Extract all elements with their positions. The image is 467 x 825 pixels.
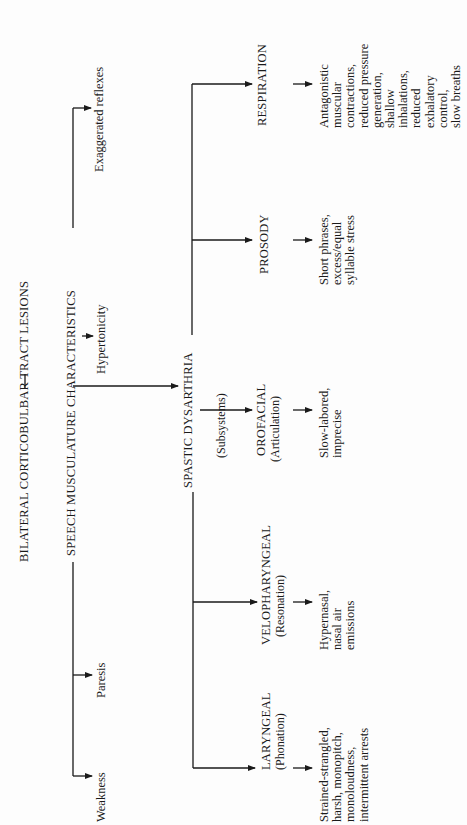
desc-line: reduced: [410, 44, 423, 128]
orofacial-description: Slow-labored, imprecise: [318, 388, 344, 458]
speech-musculature-label: SPEECH MUSCULATURE CHARACTERISTICS: [65, 290, 79, 556]
velopharyngeal-label: VELOPHARYNGEAL: [260, 525, 274, 645]
laryngeal-node: LARYNGEAL (Phonation): [260, 693, 287, 771]
desc-line: intermittent arrests: [358, 727, 371, 822]
paresis-label: Paresis: [95, 663, 109, 698]
laryngeal-description: Strained-strangled, harsh, monopitch, mo…: [318, 727, 371, 822]
diagram-canvas: BILATERAL CORTICOBULBAR TRACT LESIONS SP…: [0, 0, 467, 825]
articulation-label: (Articulation): [269, 384, 282, 462]
desc-line: syllable stress: [344, 214, 357, 285]
respiration-label: RESPIRATION: [256, 44, 270, 126]
desc-line: imprecise: [331, 388, 344, 458]
laryngeal-label: LARYNGEAL: [260, 693, 274, 771]
prosody-label: PROSODY: [258, 214, 272, 274]
orofacial-label: OROFACIAL: [255, 384, 269, 462]
hypertonicity-label: Hypertonicity: [95, 305, 109, 374]
velopharyngeal-description: Hypernasal, nasal air emissions: [318, 590, 358, 650]
respiration-description: Antagonistic muscular contractions, redu…: [318, 44, 463, 128]
desc-line: contractions,: [344, 44, 357, 128]
velopharyngeal-node: VELOPHARYNGEAL (Resonation): [260, 525, 287, 645]
root-node-label: BILATERAL CORTICOBULBAR TRACT LESIONS: [18, 281, 32, 562]
spastic-dysarthria-label: SPASTIC DYSARTHRIA: [182, 353, 196, 488]
desc-line: exhalatory: [424, 44, 437, 128]
weakness-label: Weakness: [95, 772, 109, 822]
orofacial-node: OROFACIAL (Articulation): [255, 384, 282, 462]
subsystems-note: (Subsystems): [215, 393, 228, 458]
desc-line: slow breaths: [450, 44, 463, 128]
desc-line: monoloudness,: [344, 727, 357, 822]
desc-line: emissions: [344, 590, 357, 650]
resonation-label: (Resonation): [274, 525, 287, 645]
exaggerated-reflexes-label: Exaggerated reflexes: [93, 67, 107, 172]
desc-line: reduced pressure: [358, 44, 371, 128]
prosody-description: Short phrases, excess/equal syllable str…: [318, 214, 358, 285]
phonation-label: (Phonation): [274, 693, 287, 771]
